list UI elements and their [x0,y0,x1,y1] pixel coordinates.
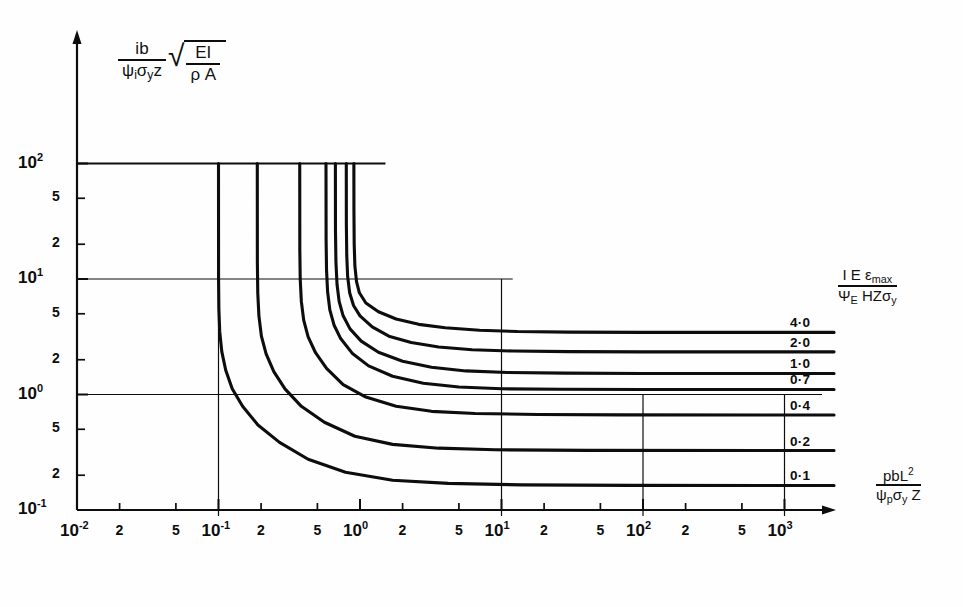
x-tick-label-decade: 103 [768,520,793,540]
y-tick-label-minor: 5 [52,189,60,204]
curve-family-numerator: I E εmax [838,266,897,285]
x-tick-label-minor: 2 [116,523,124,538]
curve-family-denominator: ΨE HZσy [838,287,897,306]
x-tick-label-decade: 10-2 [60,520,89,540]
y-tick-label-decade: 102 [18,152,43,172]
radical-numerator: EI [186,43,220,63]
radical-denominator: ρ A [186,65,220,85]
curve-0-7 [326,164,834,390]
radical-sign-icon: √ [168,42,184,87]
x-tick-label-minor: 5 [313,523,321,538]
x-tick-label-minor: 5 [455,523,463,538]
radical-contents: EI ρ A [184,40,226,85]
curve-0-1 [219,164,835,486]
y-tick-label-minor: 2 [52,235,60,250]
curve-0-2 [257,164,834,451]
y-tick-label-minor: 2 [52,351,60,366]
x-label-numerator: pbL2 [876,466,921,484]
x-tick-label-decade: 100 [343,520,368,540]
y-label-numerator: ib [118,39,166,59]
y-tick-label-minor: 2 [52,466,60,481]
y-label-denominator: ψiσyz [118,61,166,82]
y-tick-label-minor: 5 [52,420,60,435]
x-axis-arrow-icon [822,506,836,515]
curve-label-2-0: 2·0 [790,336,810,350]
y-tick-label-decade: 100 [18,383,43,403]
y-axis-label: ib ψiσyz √ EI ρ A [118,38,226,83]
x-tick-label-minor: 5 [738,523,746,538]
x-tick-label-decade: 10-1 [202,520,231,540]
y-tick-label-minor: 5 [52,305,60,320]
y-tick-label-decade: 101 [18,267,43,287]
curve-label-1-0: 1·0 [790,357,810,371]
figure-root: ib ψiσyz √ EI ρ A I E εmax ΨE HZσy pbL2 … [0,0,963,607]
x-tick-label-minor: 5 [172,523,180,538]
x-tick-label-minor: 2 [257,523,265,538]
y-tick-label-decade: 10-1 [18,498,47,518]
curve-4-0 [354,164,834,333]
radical-fraction: EI ρ A [186,43,220,85]
curve-label-4-0: 4·0 [790,316,810,330]
x-label-denominator: ψpσy Z [876,486,921,505]
chart-plot-area [0,0,963,607]
x-tick-label-minor: 5 [596,523,604,538]
curve-label-0-1: 0·1 [790,469,810,483]
curve-label-0-7: 0·7 [790,373,810,387]
x-tick-label-minor: 2 [399,523,407,538]
x-tick-label-decade: 101 [485,520,510,540]
y-axis-arrow-icon [73,30,82,44]
y-axis-label-fraction: ib ψiσyz [118,39,166,82]
curve-family-label: I E εmax ΨE HZσy [838,266,897,306]
x-tick-label-decade: 102 [626,520,651,540]
x-axis-label: pbL2 ψpσy Z [876,466,921,505]
y-label-radical: √ EI ρ A [168,38,226,83]
x-tick-label-minor: 2 [540,523,548,538]
curve-label-0-4: 0·4 [790,399,810,413]
curve-0-4 [300,164,834,415]
x-tick-label-minor: 2 [682,523,690,538]
curve-label-0-2: 0·2 [790,435,810,449]
